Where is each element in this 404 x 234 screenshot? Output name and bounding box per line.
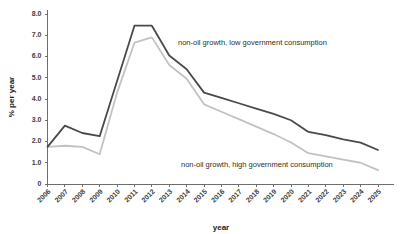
series-annotations: non-oil growth, low government consumpti… bbox=[178, 38, 333, 169]
x-tick-label: 2021 bbox=[297, 188, 313, 204]
x-tick-label: 2024 bbox=[349, 188, 365, 204]
x-tick-label: 2011 bbox=[123, 188, 139, 204]
y-tick-label: 6.0 bbox=[32, 52, 42, 59]
label-low-gov: non-oil growth, low government consumpti… bbox=[178, 38, 327, 47]
label-high-gov: non-oil growth, high government consumpt… bbox=[181, 160, 333, 169]
x-tick-label: 2006 bbox=[36, 188, 52, 204]
x-tick-label: 2019 bbox=[262, 188, 278, 204]
x-tick-label: 2008 bbox=[71, 188, 87, 204]
x-tick-label: 2013 bbox=[158, 188, 174, 204]
y-tick-label: 3.0 bbox=[32, 116, 42, 123]
x-tick-label: 2025 bbox=[366, 188, 382, 204]
x-tick-label: 2012 bbox=[140, 188, 156, 204]
x-tick-label: 2010 bbox=[105, 188, 121, 204]
x-axis-tick-labels: 2006200720082009201020112012201320142015… bbox=[36, 188, 383, 204]
series-line bbox=[48, 37, 379, 170]
y-axis-title: % per year bbox=[7, 77, 16, 117]
x-tick-label: 2022 bbox=[314, 188, 330, 204]
chart-container: 01.02.03.04.05.06.07.08.0 20062007200820… bbox=[0, 0, 404, 234]
y-tick-label: 1.0 bbox=[32, 159, 42, 166]
y-tick-label: 8.0 bbox=[32, 10, 42, 17]
series-lines bbox=[48, 26, 379, 171]
x-tick-label: 2018 bbox=[244, 188, 260, 204]
y-tick-label: 5.0 bbox=[32, 74, 42, 81]
x-tick-label: 2020 bbox=[279, 188, 295, 204]
x-axis-title: year bbox=[213, 223, 229, 232]
line-chart: 01.02.03.04.05.06.07.08.0 20062007200820… bbox=[0, 0, 404, 234]
y-tick-label: 4.0 bbox=[32, 95, 42, 102]
x-tick-label: 2007 bbox=[53, 188, 69, 204]
y-tick-label: 0 bbox=[38, 180, 42, 187]
y-tick-label: 2.0 bbox=[32, 137, 42, 144]
x-tick-label: 2015 bbox=[192, 188, 208, 204]
x-tick-label: 2014 bbox=[175, 188, 191, 204]
x-tick-label: 2023 bbox=[331, 188, 347, 204]
x-tick-label: 2009 bbox=[88, 188, 104, 204]
y-tick-label: 7.0 bbox=[32, 31, 42, 38]
x-tick-label: 2017 bbox=[227, 188, 243, 204]
x-tick-label: 2016 bbox=[210, 188, 226, 204]
y-axis-tick-labels: 01.02.03.04.05.06.07.08.0 bbox=[32, 10, 42, 187]
